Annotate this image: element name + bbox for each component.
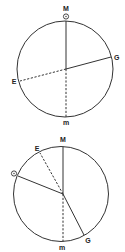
diagram-canvas: M G E m M E G m (0, 0, 125, 252)
diagram-bottom: M E G m (11, 136, 108, 251)
label-E: E (35, 145, 40, 152)
line-to-G (63, 194, 84, 235)
label-m: m (59, 244, 65, 251)
orbit-circle (14, 147, 109, 242)
line-to-sun (18, 176, 63, 194)
label-m: m (63, 119, 69, 126)
dashed-line-to-E (20, 69, 66, 81)
label-M: M (63, 5, 69, 12)
dashed-line-to-E (40, 153, 63, 194)
line-to-G (66, 57, 111, 69)
label-M: M (60, 136, 66, 143)
label-G: G (85, 237, 91, 244)
diagram-top: M G E m (12, 5, 120, 126)
label-G: G (114, 54, 120, 61)
label-E: E (12, 78, 17, 85)
sun-icon (11, 171, 16, 176)
sun-icon (63, 14, 68, 19)
